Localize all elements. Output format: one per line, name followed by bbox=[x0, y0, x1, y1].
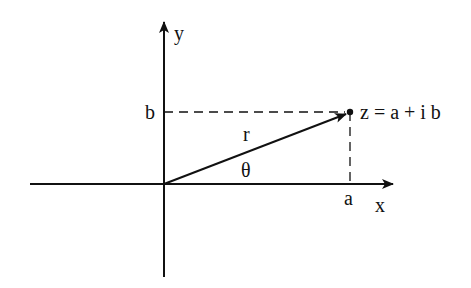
point-z-label: z = a + i b bbox=[360, 101, 441, 123]
vector-r bbox=[164, 114, 346, 184]
y-axis-label: y bbox=[174, 22, 184, 45]
theta-label: θ bbox=[241, 159, 251, 181]
x-axis-label: x bbox=[375, 194, 385, 216]
complex-plane-diagram: y x b a r θ z = a + i b bbox=[0, 0, 471, 288]
r-label: r bbox=[243, 123, 250, 145]
point-z bbox=[347, 109, 353, 115]
b-label: b bbox=[145, 101, 155, 123]
a-label: a bbox=[344, 187, 353, 209]
